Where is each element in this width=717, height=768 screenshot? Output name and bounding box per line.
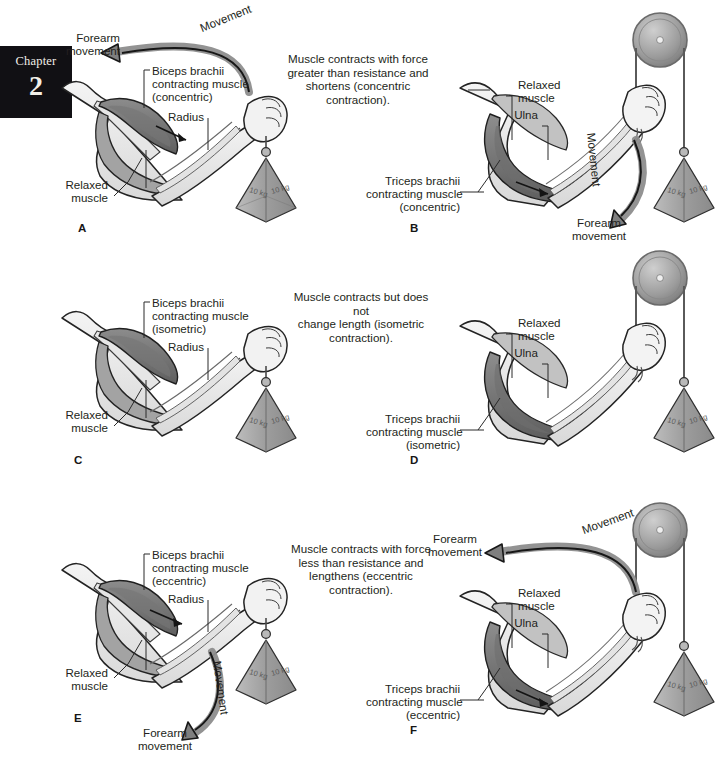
panel-c: 10 kg 10 kg Biceps brachii contracting m… (0, 250, 360, 480)
label-ulna-f: Ulna (478, 616, 538, 629)
panel-letter-c: C (74, 454, 82, 466)
pulley-d (633, 251, 687, 305)
label-relaxed-muscle-d: Relaxed muscle (518, 316, 561, 342)
label-ulna-d: Ulna (478, 346, 538, 359)
weight-d: 10 kg 10 kg (654, 388, 714, 452)
pulley-f (633, 503, 687, 557)
label-biceps-a: Biceps brachii contracting muscle (conce… (152, 64, 249, 104)
movement-arrow-f (485, 544, 636, 592)
panel-f: 10 kg 10 kg Forearm movement Movement Re… (360, 500, 717, 768)
label-radius-e: Radius (140, 592, 204, 605)
label-biceps-e: Biceps brachii contracting muscle (eccen… (152, 548, 249, 588)
weight-a: 10 kg 10 kg (236, 158, 296, 222)
label-forearm-movement-b: Forearm movement (552, 216, 646, 242)
label-radius-a: Radius (140, 110, 204, 123)
panel-letter-f: F (410, 724, 417, 736)
weight-c: 10 kg 10 kg (236, 388, 296, 452)
panel-b: 10 kg 10 kg Relaxed muscle Ulna Triceps … (360, 0, 717, 250)
label-triceps-b: Triceps brachii contracting muscle (conc… (366, 174, 460, 214)
label-forearm-movement-f: Forearm movement (408, 532, 502, 558)
label-relaxed-muscle-a: Relaxed muscle (28, 178, 108, 204)
weight-f: 10 kg 10 kg (654, 652, 714, 716)
weight-e: 10 kg 10 kg (236, 640, 296, 704)
panel-c-artwork: 10 kg 10 kg (0, 250, 360, 480)
label-relaxed-muscle-f: Relaxed muscle (518, 586, 561, 612)
label-relaxed-muscle-e: Relaxed muscle (28, 666, 108, 692)
panel-letter-a: A (78, 222, 86, 234)
weight-b: 10 kg 10 kg (654, 158, 714, 222)
panel-e: 10 kg 10 kg Biceps brachii contracting m… (0, 500, 360, 768)
label-ulna-b: Ulna (478, 108, 538, 121)
panel-letter-b: B (410, 222, 418, 234)
label-forearm-movement-a: Forearm movement (10, 31, 120, 57)
label-triceps-f: Triceps brachii contracting muscle (ecce… (366, 682, 460, 722)
pulley-b (633, 13, 687, 67)
label-relaxed-muscle-c: Relaxed muscle (28, 408, 108, 434)
label-triceps-d: Triceps brachii contracting muscle (isom… (366, 412, 460, 452)
panel-a: 10 kg 10 kg Forearm movement Movement Bi… (0, 0, 360, 250)
label-forearm-movement-e: Forearm movement (118, 726, 212, 752)
panel-letter-e: E (74, 712, 82, 724)
figure-muscle-contraction-types: Chapter 2 (0, 0, 717, 768)
label-radius-c: Radius (140, 340, 204, 353)
panel-d: 10 kg 10 kg Relaxed muscle Ulna Triceps … (360, 250, 717, 480)
label-relaxed-muscle-b: Relaxed muscle (518, 78, 561, 104)
label-biceps-c: Biceps brachii contracting muscle (isome… (152, 296, 249, 336)
panel-letter-d: D (410, 454, 418, 466)
